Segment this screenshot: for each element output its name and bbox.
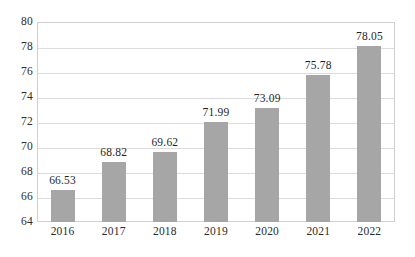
x-tick-label: 2017 bbox=[91, 226, 137, 238]
y-tick-label: 76 bbox=[0, 66, 33, 78]
bar bbox=[255, 108, 279, 222]
bar-value-label: 78.05 bbox=[346, 31, 392, 43]
x-tick-label: 2020 bbox=[244, 226, 290, 238]
bar-value-label: 68.82 bbox=[91, 147, 137, 159]
bar-group: 75.78 bbox=[295, 22, 341, 222]
bar-group: 68.82 bbox=[91, 22, 137, 222]
y-tick-label: 68 bbox=[0, 166, 33, 178]
y-tick-label: 70 bbox=[0, 141, 33, 153]
y-tick-label: 66 bbox=[0, 191, 33, 203]
y-tick-label: 74 bbox=[0, 91, 33, 103]
bar bbox=[306, 75, 330, 222]
bar-group: 69.62 bbox=[142, 22, 188, 222]
bar bbox=[102, 162, 126, 222]
bar bbox=[357, 46, 381, 222]
bars-layer: 66.5368.8269.6271.9973.0975.7878.05 bbox=[37, 22, 395, 222]
y-tick-label: 80 bbox=[0, 16, 33, 28]
x-tick-label: 2016 bbox=[40, 226, 86, 238]
x-tick-label: 2021 bbox=[295, 226, 341, 238]
y-axis: 646668707274767880 bbox=[0, 22, 33, 222]
y-tick-label: 72 bbox=[0, 116, 33, 128]
bar-value-label: 73.09 bbox=[244, 93, 290, 105]
y-tick-label: 78 bbox=[0, 41, 33, 53]
x-tick-label: 2019 bbox=[193, 226, 239, 238]
bar-group: 78.05 bbox=[346, 22, 392, 222]
bar-value-label: 69.62 bbox=[142, 137, 188, 149]
bar-value-label: 66.53 bbox=[40, 175, 86, 187]
bar-value-label: 75.78 bbox=[295, 60, 341, 72]
y-tick-label: 64 bbox=[0, 216, 33, 228]
x-tick-label: 2018 bbox=[142, 226, 188, 238]
bar-value-label: 71.99 bbox=[193, 107, 239, 119]
bar bbox=[204, 122, 228, 222]
bar-chart-figure: 646668707274767880 66.5368.8269.6271.997… bbox=[0, 0, 415, 257]
bar-group: 71.99 bbox=[193, 22, 239, 222]
bar-group: 73.09 bbox=[244, 22, 290, 222]
x-axis: 2016201720182019202020212022 bbox=[37, 224, 395, 242]
bar bbox=[153, 152, 177, 222]
bar bbox=[51, 190, 75, 222]
x-tick-label: 2022 bbox=[346, 226, 392, 238]
bar-group: 66.53 bbox=[40, 22, 86, 222]
